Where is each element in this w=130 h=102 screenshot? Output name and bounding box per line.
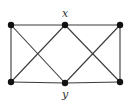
graph-diagram: x y [0,0,130,102]
node-tr [117,22,123,28]
node-y [62,80,68,86]
node-tl [8,22,14,28]
node-bl [8,79,14,85]
graph-edges [11,25,120,83]
node-label-y: y [61,88,69,101]
edge-y-br [65,82,120,83]
edge-bl-y [11,82,65,83]
node-x [62,22,68,28]
node-label-x: x [62,7,69,20]
node-br [117,79,123,85]
graph-nodes [8,22,123,86]
